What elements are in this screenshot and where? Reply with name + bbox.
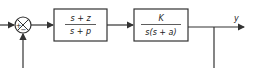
compensator-denominator: s + p [70, 27, 91, 36]
compensator-block: s + z s + p [54, 9, 107, 41]
minus-sign: − [21, 26, 27, 34]
output-label: y [233, 14, 239, 23]
block-diagram: + − s + z s + p K s(s + a) y [0, 0, 262, 68]
plant-numerator: K [158, 14, 164, 23]
plant-denominator: s(s + a) [145, 28, 176, 37]
compensator-numerator: s + z [70, 14, 91, 23]
summing-junction: + − [15, 17, 31, 34]
plant-block: K s(s + a) [134, 9, 188, 41]
